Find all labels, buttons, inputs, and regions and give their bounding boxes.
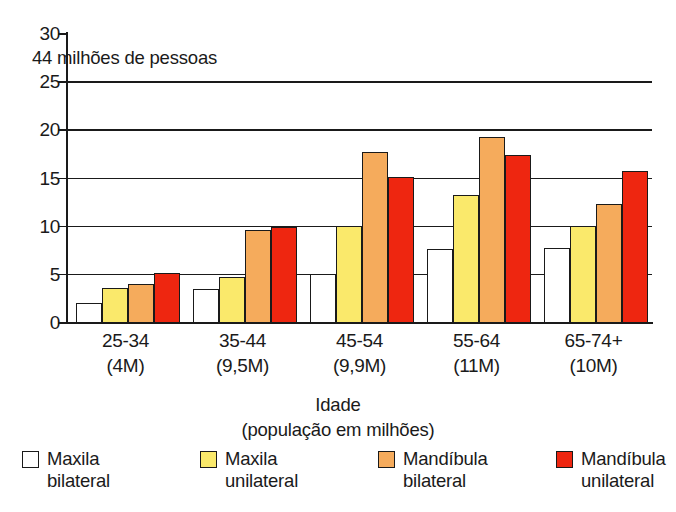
y-tick-label: 0 (50, 313, 60, 332)
chart-annotation: 44 milhões de pessoas (32, 47, 217, 69)
bar (76, 303, 102, 322)
category-population: (9,5M) (184, 353, 301, 378)
x-axis-line (66, 322, 653, 324)
bar (128, 284, 154, 322)
category-population: (9,9M) (301, 353, 418, 378)
bar (427, 249, 453, 322)
legend-item[interactable]: Mandíbulaunilateral (556, 448, 676, 492)
bar (102, 288, 128, 322)
legend-label: Maxilaunilateral (225, 448, 298, 492)
bar (245, 230, 271, 322)
bar (479, 137, 505, 322)
legend-label-line2: bilateral (403, 470, 488, 492)
bar-group (535, 33, 652, 322)
legend-label-line2: bilateral (47, 470, 110, 492)
legend-item[interactable]: Maxilaunilateral (200, 448, 378, 492)
x-axis-title-main: Idade (315, 394, 360, 415)
chart-legend: MaxilabilateralMaxilaunilateralMandíbula… (22, 448, 676, 492)
legend-swatch-icon (378, 451, 395, 468)
legend-item[interactable]: Maxilabilateral (22, 448, 200, 492)
category-population: (4M) (67, 353, 184, 378)
legend-label-line1: Maxila (47, 448, 99, 469)
category-age-range: 25-34 (102, 330, 149, 351)
x-axis-title: Idade (população em milhões) (0, 392, 676, 442)
y-tick-label: 5 (50, 264, 60, 283)
x-axis-category-label: 35-44(9,5M) (184, 328, 301, 388)
bar (310, 274, 336, 322)
plot-area: 051015202530 (67, 33, 652, 322)
bar (570, 226, 596, 322)
legend-label-line1: Mandíbula (581, 448, 666, 469)
bar-chart: 051015202530 44 milhões de pessoas 25-34… (0, 0, 676, 512)
legend-swatch-icon (200, 451, 217, 468)
bar (193, 289, 219, 322)
bar (596, 204, 622, 322)
legend-label: Mandíbulaunilateral (581, 448, 666, 492)
legend-label-line1: Mandíbula (403, 448, 488, 469)
y-tick-label: 30 (39, 24, 60, 43)
x-axis-category-label: 45-54(9,9M) (301, 328, 418, 388)
bar (453, 195, 479, 322)
y-tick-label: 10 (39, 216, 60, 235)
bar-group (418, 33, 535, 322)
bar-group (301, 33, 418, 322)
y-tick-label: 15 (39, 168, 60, 187)
category-population: (10M) (535, 353, 652, 378)
bar (505, 155, 531, 322)
legend-label: Maxilabilateral (47, 448, 110, 492)
bar (388, 177, 414, 322)
category-age-range: 35-44 (219, 330, 266, 351)
bar (154, 273, 180, 322)
bar (336, 226, 362, 322)
category-age-range: 65-74+ (565, 330, 623, 351)
x-axis-category-label: 65-74+(10M) (535, 328, 652, 388)
x-axis-title-sub: (população em milhões) (0, 417, 676, 442)
bar (544, 248, 570, 322)
y-tick-label: 20 (39, 120, 60, 139)
y-tick-label: 25 (39, 72, 60, 91)
bar (362, 152, 388, 322)
x-axis-category-label: 25-34(4M) (67, 328, 184, 388)
x-axis-category-label: 55-64(11M) (418, 328, 535, 388)
bar-group (184, 33, 301, 322)
legend-swatch-icon (22, 451, 39, 468)
bar-groups (67, 33, 652, 322)
legend-item[interactable]: Mandíbulabilateral (378, 448, 556, 492)
legend-label-line1: Maxila (225, 448, 277, 469)
category-age-range: 55-64 (453, 330, 500, 351)
legend-label: Mandíbulabilateral (403, 448, 488, 492)
category-population: (11M) (418, 353, 535, 378)
bar (622, 171, 648, 322)
x-axis-category-labels: 25-34(4M)35-44(9,5M)45-54(9,9M)55-64(11M… (67, 328, 652, 388)
bar-group (67, 33, 184, 322)
legend-label-line2: unilateral (225, 470, 298, 492)
category-age-range: 45-54 (336, 330, 383, 351)
legend-swatch-icon (556, 451, 573, 468)
legend-label-line2: unilateral (581, 470, 666, 492)
bar (219, 277, 245, 322)
bar (271, 227, 297, 322)
